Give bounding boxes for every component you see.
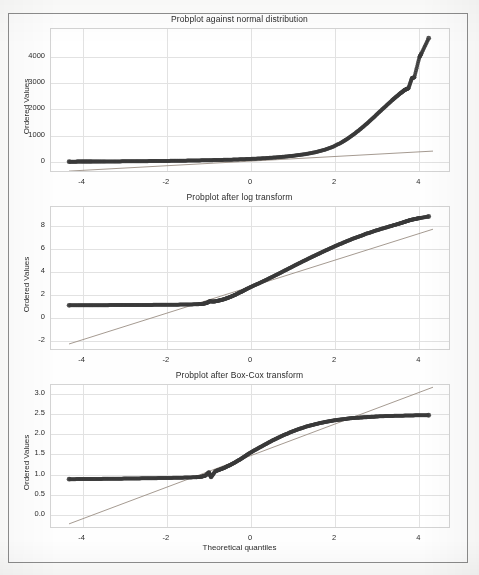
x-tick-label: 4 — [403, 355, 433, 364]
y-tick-label: 3000 — [8, 77, 45, 86]
x-tick-label: 2 — [319, 533, 349, 542]
x-tick-label: 0 — [235, 533, 265, 542]
y-tick-label: 4 — [8, 266, 45, 275]
data-series-layer — [51, 29, 450, 172]
data-series-layer — [51, 207, 450, 350]
shared-xaxis-label: Theoretical quantiles — [0, 543, 479, 552]
panel-boxcox: Probplot after Box-Cox transform Ordered… — [0, 370, 479, 565]
y-tick-label: 0 — [8, 312, 45, 321]
x-tick-label: 4 — [403, 533, 433, 542]
panel-normal: Probplot against normal distribution Ord… — [0, 14, 479, 194]
panel-log: Probplot after log transform Ordered Val… — [0, 192, 479, 372]
data-point — [426, 36, 431, 41]
x-tick-label: 2 — [319, 177, 349, 186]
y-tick-label: 3.0 — [8, 388, 45, 397]
plot-area-log[interactable] — [50, 206, 450, 350]
y-tick-label: 1000 — [8, 130, 45, 139]
fit-line — [69, 387, 433, 524]
y-tick-label: 4000 — [8, 51, 45, 60]
y-tick-label: 1.5 — [8, 448, 45, 457]
y-tick-label: 8 — [8, 220, 45, 229]
data-point — [426, 413, 431, 418]
panel-title-log: Probplot after log transform — [0, 192, 479, 202]
data-series-layer — [51, 385, 450, 528]
x-tick-label: -2 — [151, 177, 181, 186]
y-tick-label: 6 — [8, 243, 45, 252]
panel-title-normal: Probplot against normal distribution — [0, 14, 479, 24]
x-tick-label: 2 — [319, 355, 349, 364]
y-tick-label: 0 — [8, 156, 45, 165]
x-tick-label: 0 — [235, 355, 265, 364]
panel-title-boxcox: Probplot after Box-Cox transform — [0, 370, 479, 380]
probplot-figure: Probplot against normal distribution Ord… — [0, 0, 479, 575]
y-tick-label: 2.5 — [8, 408, 45, 417]
y-tick-label: -2 — [8, 335, 45, 344]
plot-area-normal[interactable] — [50, 28, 450, 172]
x-tick-label: -4 — [67, 355, 97, 364]
x-tick-label: 0 — [235, 177, 265, 186]
data-point — [426, 214, 431, 219]
y-tick-label: 2 — [8, 289, 45, 298]
y-tick-label: 2.0 — [8, 428, 45, 437]
plot-area-boxcox[interactable] — [50, 384, 450, 528]
y-tick-label: 0.5 — [8, 489, 45, 498]
x-tick-label: 4 — [403, 177, 433, 186]
y-tick-label: 2000 — [8, 103, 45, 112]
x-tick-label: -2 — [151, 533, 181, 542]
x-tick-label: -4 — [67, 177, 97, 186]
x-tick-label: -2 — [151, 355, 181, 364]
y-tick-label: 0.0 — [8, 509, 45, 518]
scanned-page: Probplot against normal distribution Ord… — [0, 0, 479, 575]
x-tick-label: -4 — [67, 533, 97, 542]
y-tick-label: 1.0 — [8, 469, 45, 478]
